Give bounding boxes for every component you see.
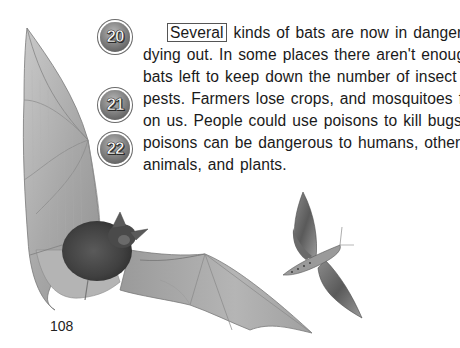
passage-line-5: on us. People could use poisons to kill …: [143, 110, 448, 132]
passage-line-3: bats left to keep down the number of ins…: [143, 66, 448, 88]
badge-number: 22: [107, 139, 124, 159]
question-badge-22: 22: [100, 134, 130, 164]
question-badge-20: 20: [100, 22, 130, 52]
passage-line-1: Several kinds of bats are now in danger …: [143, 22, 448, 44]
bat-right-wing: [120, 250, 312, 333]
badge-number: 20: [107, 27, 124, 47]
moth: [283, 192, 362, 318]
question-badge-21: 21: [100, 90, 130, 120]
badge-number: 21: [107, 95, 124, 115]
boxed-vocabulary-word: Several: [167, 23, 227, 42]
passage-line-4: pests. Farmers lose crops, and mosquitoe…: [143, 88, 448, 110]
passage-line-6: poisons can be dangerous to humans, othe…: [143, 132, 448, 154]
page-number: 108: [50, 318, 73, 334]
book-page: 20 21 22 Several kinds of bats are now i…: [0, 0, 460, 348]
passage-line-2: dying out. In some places there aren't e…: [143, 44, 448, 66]
passage-line-7: animals, and plants.: [143, 154, 448, 176]
reading-passage: Several kinds of bats are now in danger …: [143, 22, 448, 176]
